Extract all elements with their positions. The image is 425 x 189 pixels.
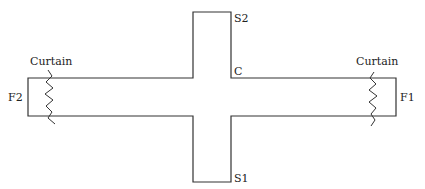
s2-label: S2	[234, 12, 249, 25]
curtain-right-label: Curtain	[356, 55, 398, 68]
f1-label: F1	[400, 91, 415, 104]
cross-diagram: Curtain Curtain F2 F1 S2 C S1	[0, 0, 425, 189]
curtain-right-line	[369, 72, 377, 126]
cross-outline	[28, 12, 396, 182]
s1-label: S1	[234, 172, 249, 185]
f2-label: F2	[8, 91, 23, 104]
c-label: C	[234, 65, 242, 78]
curtain-left-label: Curtain	[30, 55, 72, 68]
